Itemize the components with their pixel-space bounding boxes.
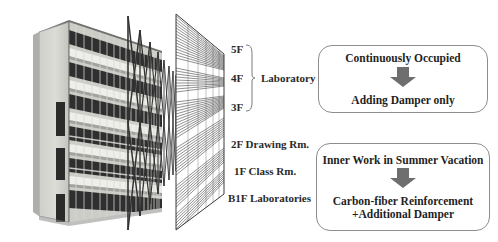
floor-label-5f: 5F: [231, 43, 243, 55]
callout-upper-floors: Continuously Occupied Adding Damper only: [318, 45, 488, 113]
callout-lower-condition: Inner Work in Summer Vacation: [322, 154, 483, 166]
callout-lower-measure-2: +Additional Damper: [352, 208, 454, 220]
callout-upper-measure: Adding Damper only: [351, 94, 454, 106]
floor-label-4f: 4F: [231, 72, 243, 84]
floor-label-1f: 1F Class Rm.: [234, 165, 296, 177]
floor-label-2f: 2F Drawing Rm.: [231, 138, 309, 150]
figure-canvas: 5F 4F 3F Laboratory Offices 2F Drawing R…: [0, 0, 498, 242]
down-arrow-icon: [389, 67, 417, 91]
callout-lower-measure-1: Carbon-fiber Reinforcement: [333, 195, 473, 207]
down-arrow-icon: [389, 168, 417, 192]
floor-label-b1f: B1F Laboratories: [228, 192, 311, 204]
line-frame-diagram: [172, 10, 230, 234]
callout-lower-floors: Inner Work in Summer Vacation Carbon-fib…: [316, 143, 490, 231]
floor-label-3f: 3F: [231, 101, 243, 113]
floor-group-brace: [243, 44, 257, 112]
callout-upper-condition: Continuously Occupied: [345, 52, 460, 64]
